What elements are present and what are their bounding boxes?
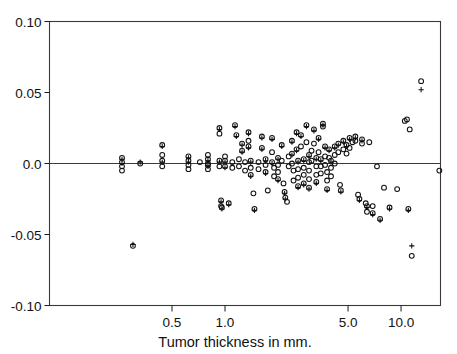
data-point-plus — [311, 128, 316, 133]
data-point-plus — [252, 208, 257, 213]
data-point-circle — [407, 127, 412, 132]
data-point-circle — [291, 178, 296, 183]
data-point-plus — [283, 196, 288, 201]
data-point-plus — [275, 178, 280, 183]
data-point-circle — [316, 150, 321, 155]
y-axis-tick-label: -0.10 — [11, 299, 42, 314]
data-point-circle — [301, 165, 306, 170]
data-point-circle — [409, 253, 414, 258]
data-point-circle — [309, 148, 314, 153]
data-point-circle — [237, 157, 242, 162]
data-point-circle — [382, 185, 387, 190]
data-point-plus — [269, 137, 274, 142]
data-point-plus — [263, 171, 268, 176]
data-point-circle — [370, 204, 375, 209]
data-point-circle — [237, 164, 242, 169]
data-point-circle — [299, 144, 304, 149]
data-point-plus — [259, 147, 264, 152]
data-point-plus — [338, 189, 343, 194]
data-point-circle — [276, 170, 281, 175]
data-point-plus — [332, 145, 337, 150]
data-point-circle — [325, 178, 330, 183]
x-axis-tick-label: 0.5 — [163, 315, 182, 330]
data-point-plus — [320, 123, 325, 128]
y-axis-tick-label: -0.05 — [11, 228, 42, 243]
data-point-circle — [270, 150, 275, 155]
data-point-circle — [395, 187, 400, 192]
data-point-plus — [409, 243, 414, 248]
data-point-plus — [222, 165, 227, 170]
data-point-circle — [329, 165, 334, 170]
chart-figure: -0.10-0.050.00.050.100.51.05.010.0Tumor … — [0, 0, 457, 354]
data-point-plus — [341, 140, 346, 145]
scatter-plot-canvas: -0.10-0.050.00.050.100.51.05.010.0Tumor … — [0, 0, 457, 354]
series-circle — [120, 79, 442, 258]
data-point-plus — [259, 135, 264, 140]
data-point-plus — [217, 127, 222, 132]
data-point-plus — [279, 144, 284, 149]
data-point-plus — [387, 206, 392, 211]
data-point-plus — [347, 137, 352, 142]
data-point-plus — [239, 142, 244, 147]
data-point-plus — [246, 145, 251, 150]
data-point-circle — [296, 167, 301, 172]
data-point-plus — [357, 198, 362, 203]
data-point-plus — [316, 137, 321, 142]
data-point-plus — [301, 158, 306, 163]
data-point-circle — [307, 177, 312, 182]
data-point-circle — [230, 165, 235, 170]
data-point-circle — [246, 138, 251, 143]
data-point-circle — [336, 150, 341, 155]
data-point-circle — [375, 164, 380, 169]
data-point-circle — [304, 140, 309, 145]
data-point-circle — [329, 174, 334, 179]
data-point-plus — [289, 140, 294, 145]
data-point-circle — [367, 140, 372, 145]
data-point-circle — [160, 153, 165, 158]
data-point-plus — [370, 212, 375, 217]
data-point-plus — [263, 158, 268, 163]
data-point-circle — [325, 170, 330, 175]
data-point-plus — [406, 208, 411, 213]
data-point-plus — [246, 131, 251, 136]
data-point-plus — [324, 188, 329, 193]
data-point-plus — [295, 185, 300, 190]
x-axis-title: Tumor thickness in mm. — [158, 334, 311, 350]
data-point-circle — [296, 175, 301, 180]
data-point-plus — [301, 182, 306, 187]
data-point-plus — [239, 150, 244, 155]
data-point-plus — [306, 186, 311, 191]
data-point-plus — [314, 181, 319, 186]
data-point-circle — [318, 171, 323, 176]
data-point-plus — [130, 242, 135, 247]
data-point-plus — [248, 174, 253, 179]
y-axis-tick-label: 0.0 — [23, 157, 42, 172]
data-point-plus — [294, 148, 299, 153]
data-point-circle — [251, 191, 256, 196]
data-point-plus — [298, 134, 303, 139]
data-point-plus — [336, 142, 341, 147]
data-point-circle — [307, 168, 312, 173]
data-point-plus — [234, 134, 239, 139]
y-axis-tick-label: 0.05 — [15, 86, 41, 101]
data-point-circle — [256, 167, 261, 172]
data-point-plus — [218, 199, 223, 204]
data-point-plus — [326, 148, 331, 153]
x-axis-tick-label: 5.0 — [339, 315, 358, 330]
data-point-plus — [226, 202, 231, 207]
data-point-plus — [304, 124, 309, 129]
data-point-circle — [301, 172, 306, 177]
data-point-circle — [419, 79, 424, 84]
data-point-plus — [160, 144, 165, 149]
data-point-circle — [281, 181, 286, 186]
data-point-circle — [265, 188, 270, 193]
data-point-circle — [243, 168, 248, 173]
data-point-plus — [344, 144, 349, 149]
data-point-plus — [232, 124, 237, 129]
data-point-circle — [312, 141, 317, 146]
y-axis-tick-label: 0.10 — [15, 15, 41, 30]
data-point-plus — [314, 157, 319, 162]
data-point-circle — [248, 165, 253, 170]
data-point-circle — [341, 147, 346, 152]
x-axis-tick-label: 10.0 — [388, 315, 414, 330]
